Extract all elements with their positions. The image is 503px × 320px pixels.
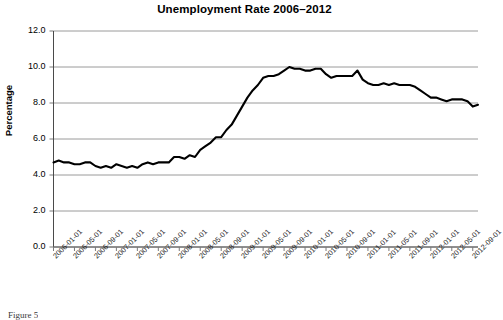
y-tick-label: 12.0 bbox=[12, 25, 46, 35]
figure-caption: Figure 5 bbox=[8, 310, 38, 320]
unemployment-rate-series bbox=[54, 67, 479, 168]
y-tick-label: 6.0 bbox=[12, 133, 46, 143]
y-tick-label: 8.0 bbox=[12, 97, 46, 107]
gridlines-group bbox=[54, 31, 479, 247]
y-tick-label: 0.0 bbox=[12, 241, 46, 251]
y-tick-marks-group bbox=[50, 31, 54, 247]
y-tick-label: 4.0 bbox=[12, 169, 46, 179]
y-tick-label: 2.0 bbox=[12, 205, 46, 215]
y-tick-label: 10.0 bbox=[12, 61, 46, 71]
